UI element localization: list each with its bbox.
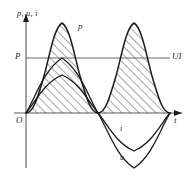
- voltage-curve-label: u: [120, 154, 124, 162]
- waveform-plot: [0, 0, 195, 177]
- power-lobe-2-hatch: [92, 15, 177, 115]
- average-power-label: P: [15, 52, 21, 61]
- current-curve-label: i: [120, 125, 122, 133]
- time-axis-label: t: [174, 116, 177, 125]
- value-axis-label: p, u, i: [17, 9, 38, 18]
- figure-container: p, u, i P UI O t p i u: [0, 0, 195, 177]
- power-curve-label: p: [78, 22, 83, 31]
- origin-label: O: [16, 116, 23, 125]
- average-power-value-label: UI: [172, 52, 182, 61]
